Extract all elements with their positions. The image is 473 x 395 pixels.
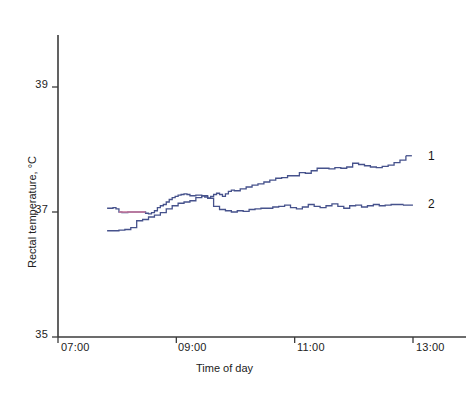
series-label-2: 2 <box>428 197 435 211</box>
x-tick-label-0900: 09:00 <box>178 341 207 353</box>
y-axis-title: Rectal temperature, °C <box>26 156 38 268</box>
y-axis-ticks <box>52 87 58 337</box>
y-tick-label-39: 39 <box>22 78 48 90</box>
x-tick-label-1300: 13:00 <box>416 341 445 353</box>
y-tick-label-35: 35 <box>22 328 48 340</box>
series-label-1: 1 <box>428 149 435 163</box>
x-axis-ticks <box>58 337 413 343</box>
chart-figure: 39 37 35 07:00 09:00 11:00 13:00 Rectal … <box>0 0 473 395</box>
x-tick-label-0700: 07:00 <box>61 341 90 353</box>
chart-plot-area <box>0 0 473 395</box>
x-axis-title: Time of day <box>196 362 253 374</box>
x-tick-label-1100: 11:00 <box>297 341 325 353</box>
data-series-layer <box>107 156 413 231</box>
